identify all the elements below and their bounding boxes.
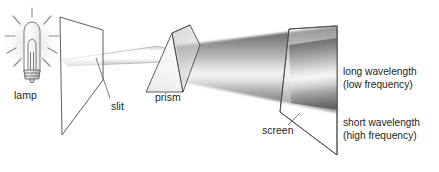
- prism-dispersion-diagram: lamp slit prism screen long wavelength (…: [0, 0, 439, 172]
- label-long-wavelength: long wavelength: [343, 66, 417, 77]
- bulb-contact: [29, 79, 35, 83]
- label-high-frequency: (high frequency): [343, 130, 417, 141]
- label-prism: prism: [155, 91, 181, 103]
- bulb-base: [24, 70, 40, 79]
- diagram-canvas: lamp slit prism screen long wavelength (…: [0, 0, 439, 172]
- label-screen: screen: [262, 124, 294, 136]
- label-lamp: lamp: [14, 89, 37, 101]
- label-low-frequency: (low frequency): [343, 79, 413, 90]
- label-slit: slit: [111, 100, 124, 112]
- slit-panel: [60, 17, 103, 135]
- light-bulb-icon: [24, 22, 40, 72]
- screen-spectrum-patch: [289, 38, 337, 110]
- lamp-group: [2, 8, 62, 83]
- slit-panel-group: [60, 17, 110, 135]
- label-short-wavelength: short wavelength: [343, 117, 420, 128]
